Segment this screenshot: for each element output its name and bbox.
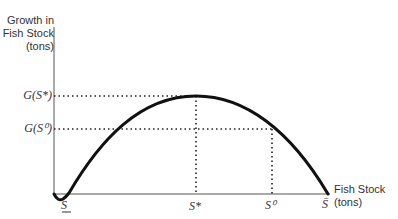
x-tick-s-zero: S⁰ bbox=[265, 199, 276, 212]
y-axis-label-line1: Growth in bbox=[0, 14, 54, 27]
x-tick-s-bar: S̄ bbox=[322, 198, 328, 211]
y-axis-label-line2: Fish Stock bbox=[0, 27, 54, 40]
growth-curve bbox=[54, 96, 328, 200]
y-tick-g-s-star: G(S*) bbox=[0, 89, 52, 102]
x-tick-s-star: S* bbox=[189, 200, 201, 213]
x-tick-s-low: S bbox=[61, 199, 67, 212]
x-axis-label: Fish Stock (tons) bbox=[334, 183, 385, 209]
x-axis-label-line2: (tons) bbox=[334, 196, 385, 209]
y-axis-label: Growth in Fish Stock (tons) bbox=[0, 14, 54, 53]
x-axis-label-line1: Fish Stock bbox=[334, 183, 385, 196]
y-axis-label-line3: (tons) bbox=[0, 40, 54, 53]
y-tick-g-s-zero: G(S⁰) bbox=[0, 122, 52, 135]
